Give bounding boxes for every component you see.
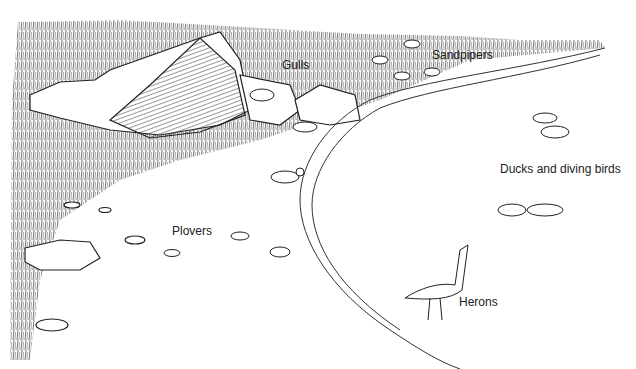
label-gulls: Gulls — [282, 58, 309, 72]
label-herons: Herons — [459, 295, 498, 309]
shoreline-illustration — [0, 0, 636, 369]
label-sandpipers: Sandpipers — [432, 48, 493, 62]
label-ducks: Ducks and diving birds — [500, 162, 621, 176]
label-plovers: Plovers — [172, 224, 212, 238]
